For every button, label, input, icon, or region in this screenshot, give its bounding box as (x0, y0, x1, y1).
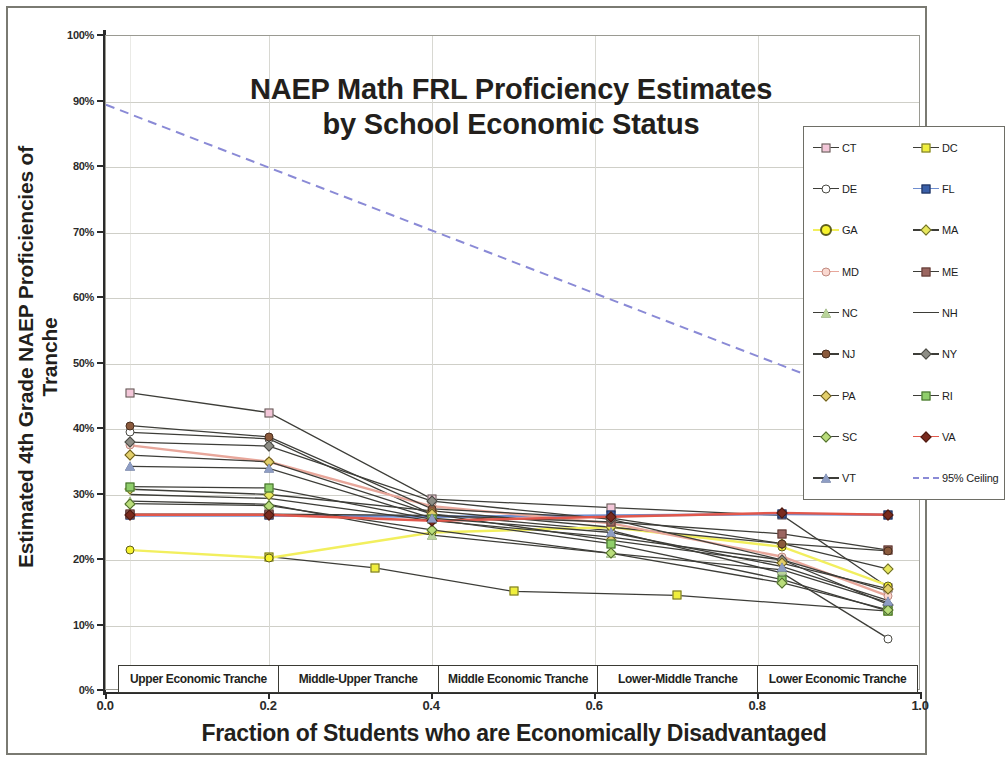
legend-marker-icon (913, 182, 939, 196)
legend-label: PA (842, 390, 855, 402)
legend-grid: CTDCDEFLGAMAMDMENCNHNJNYPARISCVAVT95% Ce… (804, 127, 1004, 499)
data-point-nj (123, 419, 137, 433)
legend-label: NC (842, 307, 858, 319)
legend-item-fl[interactable]: FL (904, 168, 1004, 209)
data-point-va (123, 508, 137, 522)
tranche-band-label: Lower Economic Tranche (757, 665, 918, 693)
chart-title-line1: NAEP Math FRL Proficiency Estimates (250, 73, 772, 105)
data-point-vt (881, 594, 895, 608)
data-point-va (775, 506, 789, 520)
legend-marker-icon (813, 182, 839, 196)
y-axis-tick-label: 20% (8, 553, 94, 565)
legend-label: DC (942, 142, 958, 154)
legend-item-dc[interactable]: DC (904, 127, 1004, 168)
legend-item-sc[interactable]: SC (804, 416, 904, 457)
legend-label: GA (842, 224, 858, 236)
legend-item-nc[interactable]: NC (804, 292, 904, 333)
y-axis-tick-label: 70% (8, 226, 94, 238)
data-point-ri (262, 481, 276, 495)
legend-marker-icon (813, 306, 839, 320)
y-axis-tick-mark (97, 689, 104, 691)
legend-item-va[interactable]: VA (904, 416, 1004, 457)
y-axis-tick-label: 100% (8, 29, 94, 41)
legend-label: FL (942, 183, 954, 195)
data-point-nj (775, 537, 789, 551)
data-point-dc (368, 561, 382, 575)
y-axis-tick-mark (97, 100, 104, 102)
y-axis-tick-mark (97, 624, 104, 626)
legend-marker-icon (813, 347, 839, 361)
legend-item-de[interactable]: DE (804, 168, 904, 209)
legend-item-ct[interactable]: CT (804, 127, 904, 168)
legend-marker-icon (913, 265, 939, 279)
x-axis-tick-label: 0.4 (422, 698, 439, 713)
legend-label: NJ (842, 348, 855, 360)
y-axis-tick-label: 50% (8, 357, 94, 369)
x-axis-title: Fraction of Students who are Economicall… (108, 720, 920, 747)
legend-item-nj[interactable]: NJ (804, 334, 904, 375)
legend-label: NH (942, 307, 958, 319)
data-point-ny (425, 494, 439, 508)
tranche-band-label: Middle-Upper Tranche (278, 665, 438, 693)
legend-marker-icon (813, 389, 839, 403)
x-axis-tick-mark (594, 692, 596, 699)
y-axis-tick-mark (97, 34, 104, 36)
legend-item-me[interactable]: ME (904, 251, 1004, 292)
x-axis-tick-mark (757, 692, 759, 699)
legend-item-ri[interactable]: RI (904, 375, 1004, 416)
chart-title: NAEP Math FRL Proficiency Estimates by S… (226, 72, 796, 143)
legend-label: NY (942, 348, 957, 360)
x-axis-tick-label: 0.6 (585, 698, 602, 713)
legend-item-ma[interactable]: MA (904, 210, 1004, 251)
y-axis-tick-mark (97, 427, 104, 429)
legend-marker-icon (913, 347, 939, 361)
series-line-95-ceiling (106, 105, 921, 419)
y-axis-tick-label: 90% (8, 95, 94, 107)
legend-label: DE (842, 183, 857, 195)
data-point-ri (123, 480, 137, 494)
y-axis-tick-mark (97, 558, 104, 560)
chart-frame: Estimated 4th Grade NAEP Proficiencies o… (6, 6, 927, 755)
y-axis-tick-label: 30% (8, 488, 94, 500)
x-axis-tick-label: 0.0 (96, 698, 113, 713)
data-point-vt (604, 525, 618, 539)
x-axis-tick-mark (431, 692, 433, 699)
legend-label: VT (842, 472, 856, 484)
x-axis-tick-label: 0.2 (259, 698, 276, 713)
y-axis-tick-label: 40% (8, 422, 94, 434)
x-axis-tick-mark (920, 692, 922, 699)
legend-item-md[interactable]: MD (804, 251, 904, 292)
data-point-ma (881, 562, 895, 576)
data-point-nj (881, 544, 895, 558)
legend-marker-icon (913, 471, 939, 485)
legend-marker-icon (913, 223, 939, 237)
legend-label: SC (842, 431, 857, 443)
legend-item-nh[interactable]: NH (904, 292, 1004, 333)
legend-item-ga[interactable]: GA (804, 210, 904, 251)
legend-label: CT (842, 142, 856, 154)
data-point-sc (604, 546, 618, 560)
x-axis-tick-label: 0.8 (748, 698, 765, 713)
data-point-ga (262, 551, 276, 565)
y-axis-tick-label: 60% (8, 291, 94, 303)
legend-item-95-ceiling[interactable]: 95% Ceiling (904, 458, 1004, 499)
data-point-va (262, 508, 276, 522)
legend-item-ny[interactable]: NY (904, 334, 1004, 375)
chart-title-line2: by School Economic Status (323, 108, 700, 140)
data-point-vt (425, 511, 439, 525)
legend-marker-icon (813, 223, 839, 237)
y-axis-tick-label: 80% (8, 160, 94, 172)
legend-marker-icon (913, 306, 939, 320)
legend-marker-icon (813, 471, 839, 485)
legend-label: ME (942, 266, 958, 278)
legend-item-pa[interactable]: PA (804, 375, 904, 416)
data-point-ny (262, 439, 276, 453)
data-point-ga (123, 543, 137, 557)
legend-label: MD (842, 266, 859, 278)
data-point-de (881, 632, 895, 646)
tranche-band-label: Middle Economic Tranche (438, 665, 598, 693)
x-axis-tick-label: 1.0 (911, 698, 928, 713)
legend-item-vt[interactable]: VT (804, 458, 904, 499)
data-point-vt (262, 461, 276, 475)
legend-label: VA (942, 431, 955, 443)
